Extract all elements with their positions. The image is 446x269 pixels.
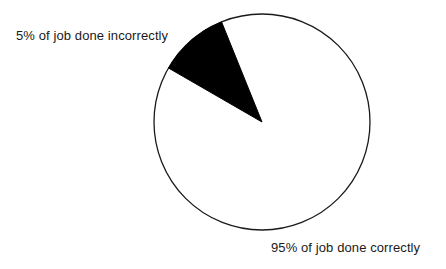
pie-label-correct: 95% of job done correctly (271, 241, 420, 255)
pie-chart-figure: 5% of job done incorrectly 95% of job do… (0, 0, 446, 269)
pie-label-incorrect: 5% of job done incorrectly (16, 29, 168, 43)
